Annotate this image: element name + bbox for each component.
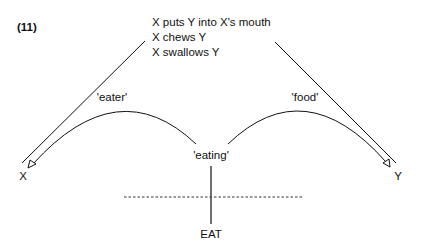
- node-x: X: [19, 170, 27, 182]
- definition-line-1: X puts Y into X's mouth: [152, 16, 271, 28]
- node-y: Y: [394, 170, 402, 182]
- definition-line-2: X chews Y: [152, 31, 206, 43]
- node-eating: 'eating': [193, 149, 229, 161]
- food-arc: [228, 111, 386, 162]
- node-eat: EAT: [200, 228, 222, 240]
- eater-arrowhead-icon: [28, 160, 36, 168]
- eater-label: 'eater': [97, 91, 128, 103]
- food-label: 'food': [292, 91, 319, 103]
- example-number: (11): [17, 21, 37, 33]
- definition-line-3: X swallows Y: [152, 46, 220, 58]
- definition-block: X puts Y into X's mouth X chews Y X swal…: [152, 16, 271, 58]
- semantic-diagram: (11) X puts Y into X's mouth X chews Y X…: [0, 0, 422, 252]
- eater-arc: [33, 111, 196, 164]
